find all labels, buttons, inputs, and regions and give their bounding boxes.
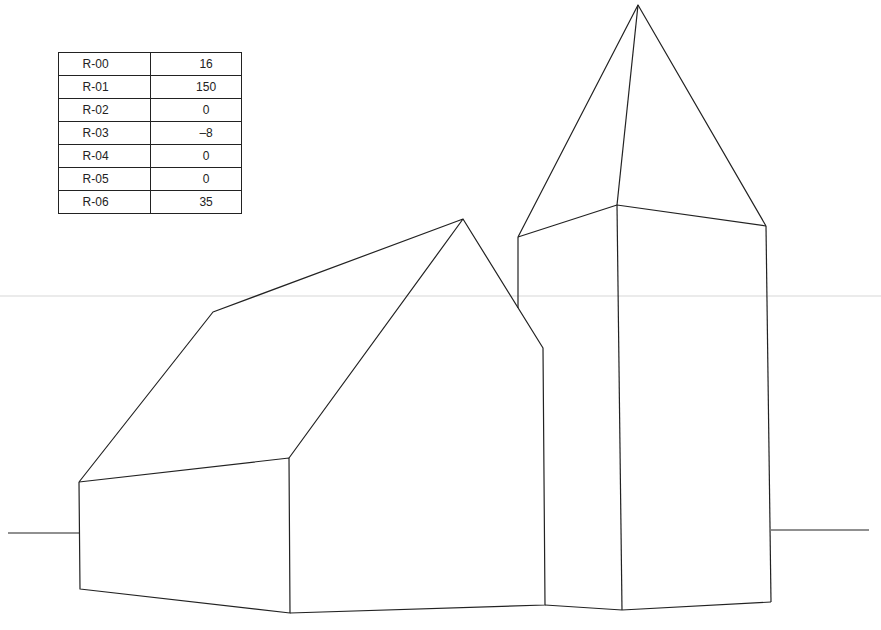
- row-value: 0: [151, 145, 242, 168]
- table-row: R-02 0: [59, 99, 242, 122]
- house-gable: [290, 219, 545, 613]
- tower-base: [545, 602, 771, 610]
- row-value: 16: [151, 53, 242, 76]
- tower-right-edge: [766, 226, 771, 602]
- row-value: 150: [151, 76, 242, 99]
- row-label: R-06: [59, 191, 151, 214]
- row-value: 0: [151, 168, 242, 191]
- house-left-face: [79, 458, 290, 613]
- tower-top-edge: [518, 205, 766, 237]
- tower-front-edge: [617, 205, 622, 610]
- parameter-table: R-00 16 R-01 150 R-02 0 R-03 –8 R-04 0 R…: [58, 52, 242, 214]
- spire-front-edge: [617, 5, 638, 205]
- row-label: R-04: [59, 145, 151, 168]
- spire-left-edge: [518, 5, 766, 237]
- table-row: R-06 35: [59, 191, 242, 214]
- row-value: 0: [151, 99, 242, 122]
- row-value: –8: [151, 122, 242, 145]
- table-row: R-01 150: [59, 76, 242, 99]
- table-row: R-05 0: [59, 168, 242, 191]
- row-label: R-02: [59, 99, 151, 122]
- row-label: R-01: [59, 76, 151, 99]
- row-value: 35: [151, 191, 242, 214]
- row-label: R-05: [59, 168, 151, 191]
- row-label: R-03: [59, 122, 151, 145]
- house-roof-slope: [79, 219, 463, 482]
- row-label: R-00: [59, 53, 151, 76]
- table-row: R-00 16: [59, 53, 242, 76]
- table-row: R-04 0: [59, 145, 242, 168]
- table-row: R-03 –8: [59, 122, 242, 145]
